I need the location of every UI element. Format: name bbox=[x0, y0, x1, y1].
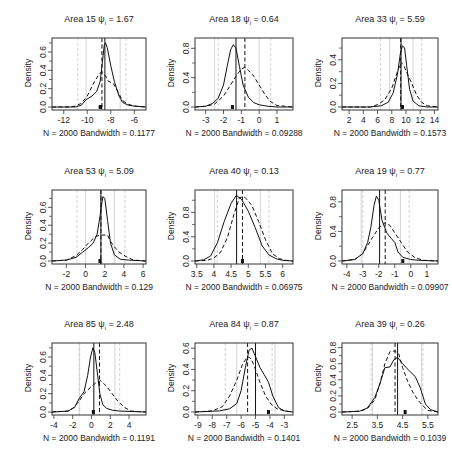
density-curve-dashed bbox=[342, 351, 438, 412]
y-tick-label: 0.8 bbox=[328, 341, 338, 353]
y-tick-label: 0.6 bbox=[328, 358, 338, 370]
y-tick-label: 0.2 bbox=[328, 390, 338, 402]
x-tick-label: 4.5 bbox=[397, 420, 409, 430]
density-curve-solid bbox=[342, 357, 438, 412]
x-tick-label: 3.5 bbox=[371, 420, 383, 430]
y-tick-label: 0.4 bbox=[328, 374, 338, 386]
density-plot-area: 2.53.54.55.50.00.20.40.60.8 bbox=[0, 0, 452, 466]
plot-frame bbox=[342, 343, 438, 415]
x-tick-label: 5.5 bbox=[422, 420, 434, 430]
point-mark bbox=[404, 410, 407, 414]
y-tick-label: 0.0 bbox=[328, 406, 338, 418]
x-tick-label: 2.5 bbox=[346, 420, 358, 430]
